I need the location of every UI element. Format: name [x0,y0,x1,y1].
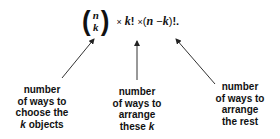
label-line: these k [100,121,174,133]
label-line: number [100,86,174,98]
label-line: of ways to [202,93,278,105]
label-line: k objects [4,119,80,131]
label-line: number [202,81,278,93]
label-choose: number of ways to choose the k objects [4,84,80,130]
label-arrange-rest: number of ways to arrange the rest [202,81,278,127]
label-line: arrange [202,104,278,116]
label-line: arrange [100,109,174,121]
label-text: objects [26,119,64,130]
label-line: choose the [4,107,80,119]
arrow-left [62,39,94,78]
label-line: the rest [202,116,278,128]
label-line: of ways to [4,96,80,108]
label-line: of ways to [100,98,174,110]
var-k: k [149,121,155,132]
label-line: number [4,84,80,96]
label-arrange-k: number of ways to arrange these k [100,86,174,132]
arrow-right [176,39,215,84]
label-text: these [120,121,149,132]
